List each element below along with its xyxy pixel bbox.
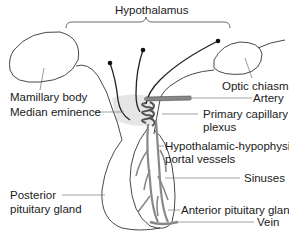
- neuron-2-body: [141, 48, 146, 53]
- hypothalamus-bracket: [66, 17, 230, 28]
- optic-nerve: [258, 40, 285, 48]
- label-posterior-pituitary-1: Posterior: [10, 189, 56, 202]
- label-median-eminence: Median eminence: [10, 106, 101, 119]
- artery: [146, 98, 190, 99]
- label-posterior-pituitary-2: pituitary gland: [10, 203, 82, 216]
- mamillary-body: [10, 32, 79, 82]
- label-artery: Artery: [253, 92, 284, 105]
- label-sinuses: Sinuses: [244, 172, 285, 185]
- label-vein: Vein: [257, 216, 279, 229]
- neuron-1-body: [108, 61, 113, 66]
- optic-leader: [245, 58, 252, 78]
- label-primary-capillary-plexus-1: Primary capillary: [203, 108, 288, 121]
- label-primary-capillary-plexus-2: plexus: [203, 121, 236, 134]
- neuron-3-body: [216, 39, 221, 44]
- label-portal-vessels-1: Hypothalamic-hypophysial: [165, 140, 289, 153]
- label-hypothalamus: Hypothalamus: [115, 4, 189, 17]
- neuron-3: [146, 41, 218, 104]
- mamillary-leader: [40, 68, 44, 90]
- hypothalamus-floor-right: [160, 70, 214, 100]
- label-portal-vessels-2: portal vessels: [165, 153, 235, 166]
- vein: [150, 222, 178, 224]
- optic-chiasm: [214, 42, 262, 74]
- label-mamillary-body: Mamillary body: [10, 91, 87, 104]
